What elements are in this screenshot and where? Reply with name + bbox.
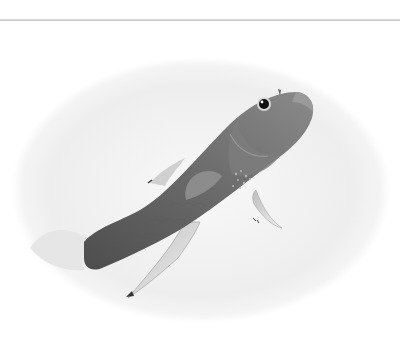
fish-photo: [0, 0, 402, 337]
